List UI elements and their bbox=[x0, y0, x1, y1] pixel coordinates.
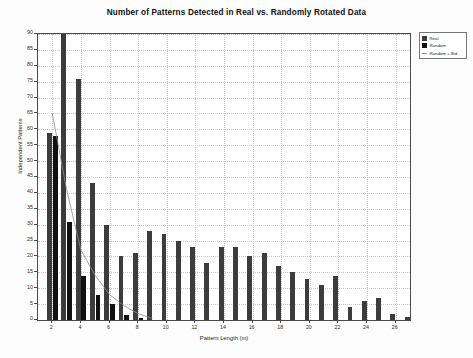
x-tick-mark bbox=[109, 320, 110, 323]
x-tick-mark bbox=[337, 320, 338, 323]
legend-line-icon bbox=[422, 53, 427, 54]
y-tick-mark bbox=[34, 224, 37, 225]
x-tick-label: 10 bbox=[156, 324, 176, 330]
x-tick-label: 22 bbox=[327, 324, 347, 330]
chart-title: Number of Patterns Detected in Real vs. … bbox=[0, 8, 473, 17]
y-tick-label: 30 bbox=[11, 221, 33, 226]
x-axis-label: Pattern Length (m) bbox=[37, 335, 411, 341]
x-tick-label: 24 bbox=[356, 324, 376, 330]
x-tick-mark bbox=[223, 320, 224, 323]
x-tick-label: 6 bbox=[99, 324, 119, 330]
y-tick-label: 85 bbox=[11, 46, 33, 51]
random-std-curve bbox=[38, 34, 410, 320]
x-tick-mark bbox=[51, 320, 52, 323]
x-tick-label: 2 bbox=[41, 324, 61, 330]
x-tick-label: 20 bbox=[299, 324, 319, 330]
x-tick-mark bbox=[166, 320, 167, 323]
legend-label: Random bbox=[430, 43, 446, 48]
y-tick-label: 5 bbox=[11, 301, 33, 306]
y-tick-mark bbox=[34, 112, 37, 113]
legend-swatch-icon bbox=[422, 43, 427, 48]
y-tick-mark bbox=[34, 33, 37, 34]
legend-item: Random bbox=[422, 43, 464, 49]
y-tick-mark bbox=[34, 208, 37, 209]
y-tick-mark bbox=[34, 319, 37, 320]
y-tick-mark bbox=[34, 240, 37, 241]
legend-label: Random + Std bbox=[430, 51, 458, 56]
legend-swatch-icon bbox=[422, 36, 427, 41]
y-tick-label: 10 bbox=[11, 285, 33, 290]
y-tick-mark bbox=[34, 65, 37, 66]
y-tick-mark bbox=[34, 303, 37, 304]
y-tick-label: 35 bbox=[11, 205, 33, 210]
x-tick-mark bbox=[309, 320, 310, 323]
y-tick-mark bbox=[34, 192, 37, 193]
x-tick-mark bbox=[137, 320, 138, 323]
y-tick-mark bbox=[34, 97, 37, 98]
x-tick-label: 18 bbox=[270, 324, 290, 330]
x-tick-mark bbox=[194, 320, 195, 323]
y-tick-mark bbox=[34, 128, 37, 129]
y-tick-label: 75 bbox=[11, 78, 33, 83]
y-tick-mark bbox=[34, 176, 37, 177]
legend-item: Real bbox=[422, 35, 464, 41]
x-tick-label: 8 bbox=[127, 324, 147, 330]
x-tick-label: 16 bbox=[242, 324, 262, 330]
legend-label: Real bbox=[430, 36, 439, 41]
x-tick-label: 12 bbox=[184, 324, 204, 330]
y-tick-mark bbox=[34, 271, 37, 272]
plot-area bbox=[37, 33, 411, 321]
x-tick-label: 26 bbox=[385, 324, 405, 330]
y-tick-label: 80 bbox=[11, 62, 33, 67]
x-tick-mark bbox=[395, 320, 396, 323]
y-tick-mark bbox=[34, 287, 37, 288]
y-tick-label: 90 bbox=[11, 30, 33, 35]
x-tick-mark bbox=[252, 320, 253, 323]
y-tick-label: 25 bbox=[11, 237, 33, 242]
x-tick-mark bbox=[366, 320, 367, 323]
x-tick-mark bbox=[80, 320, 81, 323]
y-tick-mark bbox=[34, 49, 37, 50]
y-axis-label: Independent Patterns bbox=[17, 98, 23, 194]
y-tick-mark bbox=[34, 255, 37, 256]
y-tick-mark bbox=[34, 81, 37, 82]
y-tick-mark bbox=[34, 160, 37, 161]
legend-item: Random + Std bbox=[422, 50, 464, 56]
chart-legend: RealRandomRandom + Std bbox=[419, 32, 467, 59]
y-tick-mark bbox=[34, 144, 37, 145]
x-tick-label: 4 bbox=[70, 324, 90, 330]
curve-line bbox=[52, 113, 152, 318]
chart-figure: Number of Patterns Detected in Real vs. … bbox=[0, 0, 473, 358]
y-tick-label: 0 bbox=[11, 316, 33, 321]
x-tick-mark bbox=[280, 320, 281, 323]
y-tick-label: 20 bbox=[11, 253, 33, 258]
x-tick-label: 14 bbox=[213, 324, 233, 330]
y-tick-label: 15 bbox=[11, 269, 33, 274]
